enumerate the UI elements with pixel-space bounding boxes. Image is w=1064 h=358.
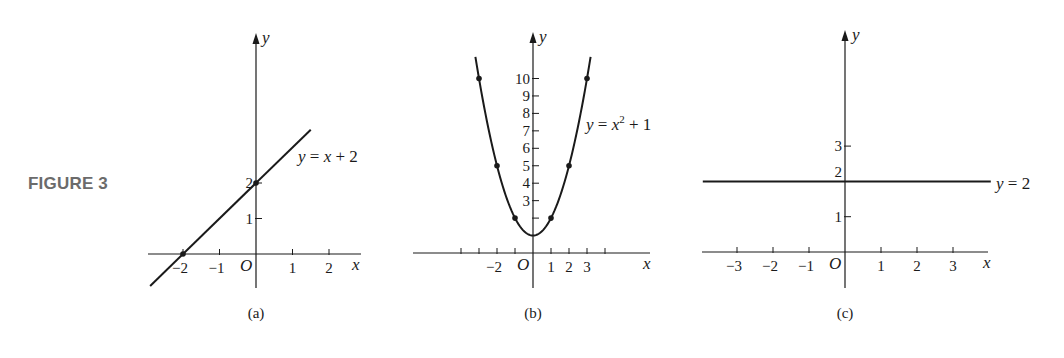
y-axis-label: y	[850, 25, 860, 44]
x-axis-label: x	[642, 254, 651, 273]
y-tick-label: 5	[523, 158, 531, 174]
data-point	[476, 76, 482, 82]
x-tick-label: −1	[798, 258, 814, 274]
y-tick-label: 7	[523, 123, 531, 139]
x-tick-label: −1	[209, 260, 225, 276]
y-axis-arrow-icon	[253, 33, 260, 44]
figure-3: FIGURE 3 xyO−2−11212 y = x + 2 (a) xyO−2…	[0, 0, 1064, 358]
panel-c-caption: (c)	[837, 305, 854, 322]
y-tick-label: 10	[515, 71, 530, 87]
data-point	[566, 163, 572, 169]
panel-c-equation: y = 2	[994, 174, 1030, 193]
x-tick-label: 2	[913, 258, 921, 274]
data-point	[180, 251, 186, 257]
plots-canvas: xyO−2−11212 y = x + 2 (a) xyO−2123345678…	[0, 0, 1064, 358]
origin-label: O	[240, 256, 252, 275]
y-axis-label: y	[260, 28, 270, 47]
y-tick-label: 4	[523, 175, 531, 191]
data-point	[494, 163, 500, 169]
panel-b-parabola: xyO−2123345678910	[413, 27, 651, 288]
y-tick-label: 1	[835, 209, 843, 225]
origin-label: O	[829, 254, 841, 273]
x-axis-label: x	[982, 253, 991, 272]
data-point	[548, 215, 554, 221]
x-tick-label: −3	[726, 258, 742, 274]
y-tick-label: 2	[835, 164, 843, 180]
x-tick-label: 2	[565, 259, 573, 275]
y-tick-label: 3	[523, 193, 531, 209]
x-tick-label: 1	[547, 259, 555, 275]
panel-a-caption: (a)	[248, 305, 265, 322]
data-point	[584, 76, 590, 82]
x-tick-label: 2	[325, 260, 333, 276]
panel-b-caption: (b)	[524, 305, 542, 322]
panel-b-equation: y = x2 + 1	[584, 113, 651, 134]
x-tick-label: −2	[486, 259, 502, 275]
x-tick-label: 1	[289, 260, 297, 276]
x-tick-label: 1	[877, 258, 885, 274]
panel-c-horizontal: xyO−3−2−1123132	[702, 25, 991, 288]
x-tick-label: −2	[762, 258, 778, 274]
data-point	[253, 180, 259, 186]
data-point	[512, 215, 518, 221]
graph-curve	[150, 130, 311, 286]
x-axis-label: x	[351, 255, 360, 274]
panel-a-equation: y = x + 2	[296, 147, 358, 166]
y-tick-label: 8	[523, 105, 531, 121]
y-tick-label: 3	[835, 138, 843, 154]
x-tick-label: 3	[583, 259, 591, 275]
y-axis-arrow-icon	[842, 30, 849, 41]
y-tick-label: 6	[523, 140, 531, 156]
x-tick-label: 3	[949, 258, 957, 274]
y-tick-label: 1	[246, 211, 254, 227]
y-axis-arrow-icon	[530, 32, 537, 43]
origin-label: O	[517, 255, 529, 274]
y-axis-label: y	[537, 27, 547, 46]
y-tick-label: 9	[523, 88, 531, 104]
